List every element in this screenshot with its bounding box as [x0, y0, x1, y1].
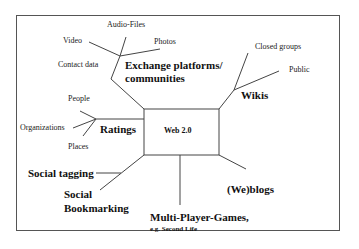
branch-wikis: Wikis — [241, 90, 268, 101]
branch-social-bookmarking-line2: Bookmarking — [64, 203, 129, 214]
leaf-organizations: Organizations — [20, 124, 65, 132]
leaf-photos: Photos — [154, 38, 176, 46]
leaf-public: Public — [289, 66, 309, 74]
leaf-contact-data: Contact data — [58, 61, 98, 69]
branch-social-bookmarking-line1: Social — [64, 189, 92, 200]
branch-ratings: Ratings — [100, 124, 136, 135]
leaf-closed-groups: Closed groups — [255, 43, 301, 51]
branch-games: Multi-Player-Games, — [150, 212, 249, 223]
leaf-places: Places — [68, 143, 88, 151]
branch-games-example: e.g. Second Life — [150, 226, 197, 233]
leaf-video: Video — [63, 37, 82, 45]
branch-weblogs: (We)blogs — [227, 184, 274, 195]
branch-social-tagging: Social tagging — [28, 168, 94, 179]
branch-exchange-line1: Exchange platforms/ — [125, 60, 222, 71]
leaf-audio-files: Audio-Files — [107, 21, 145, 29]
center-label: Web 2.0 — [164, 127, 192, 135]
leaf-people: People — [68, 95, 90, 103]
branch-exchange-line2: communities — [125, 73, 185, 84]
